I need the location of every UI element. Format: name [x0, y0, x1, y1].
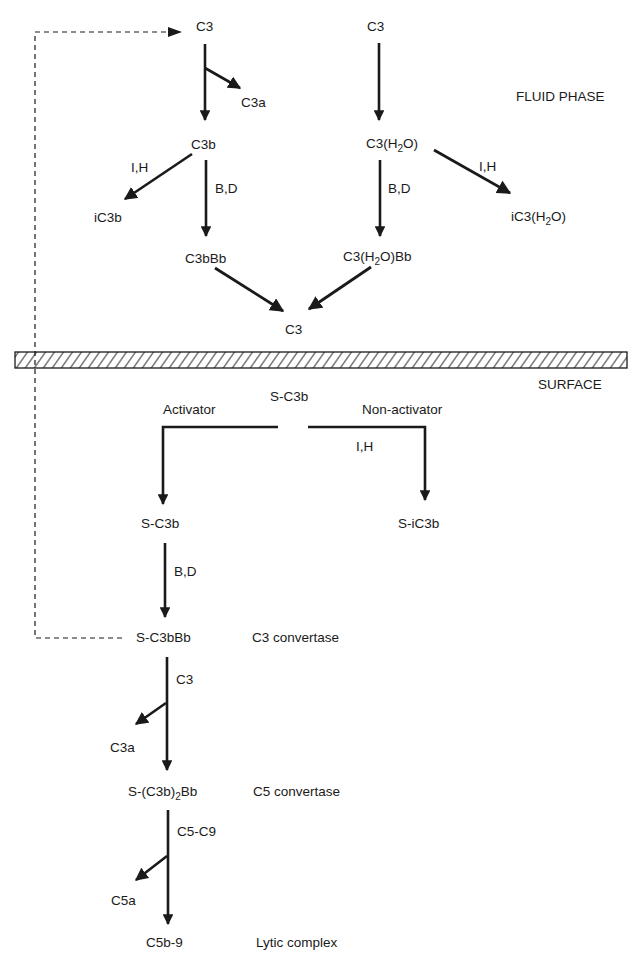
- edge-label-c5-c9-input: C5-C9: [177, 825, 216, 839]
- node-s-c3b2bb: S-(C3b)2Bb: [128, 785, 197, 799]
- node-c3b: C3b: [191, 138, 216, 152]
- arrow-surface-nonactivator-branch: [308, 427, 425, 500]
- arrow-to-c5a: [136, 856, 167, 880]
- arrow-to-c3a-bottom: [136, 703, 166, 724]
- node-s-c3bbb: S-C3bBb: [136, 631, 191, 645]
- node-c3bbb: C3bBb: [185, 252, 226, 266]
- edge-label-bd-left: B,D: [215, 182, 238, 196]
- node-c3a-top: C3a: [241, 96, 266, 110]
- edge-label-bd-surface: B,D: [174, 565, 197, 579]
- surface-membrane-bar: [15, 352, 627, 368]
- node-c5a: C5a: [111, 894, 136, 908]
- node-c3-merge: C3: [285, 323, 302, 337]
- node-c3-left-top: C3: [196, 20, 213, 34]
- edge-label-non-activator: Non-activator: [362, 403, 442, 417]
- node-c3a-bottom: C3a: [110, 741, 135, 755]
- edge-label-c3-input: C3: [176, 673, 193, 687]
- node-c3h2obb: C3(H2O)Bb: [343, 250, 412, 264]
- amplification-loop-dashed-arrow: [35, 27, 182, 638]
- arrow-c3bbb-to-c3: [215, 268, 283, 311]
- node-c3h2o: C3(H2O): [366, 137, 418, 151]
- annotation-c3-convertase: C3 convertase: [252, 631, 339, 645]
- arrow-c3h2o-to-ic3h2o: [434, 150, 510, 193]
- node-ic3h2o: iC3(H2O): [511, 210, 566, 224]
- edge-label-ih-right: I,H: [479, 160, 496, 174]
- arrow-surface-activator-branch: [163, 427, 278, 504]
- region-label-surface: SURFACE: [538, 378, 602, 392]
- pathway-diagram: [0, 0, 641, 959]
- edge-label-bd-right: B,D: [388, 182, 411, 196]
- region-label-fluid-phase: FLUID PHASE: [516, 90, 605, 104]
- node-c3-right-top: C3: [367, 20, 384, 34]
- edge-label-ih-left: I,H: [131, 161, 148, 175]
- arrow-c3-to-c3a-top: [205, 68, 240, 88]
- node-s-c3b-top: S-C3b: [270, 390, 308, 404]
- arrow-c3h2obb-to-c3: [309, 267, 371, 309]
- edge-label-ih-surface: I,H: [356, 440, 373, 454]
- annotation-lytic-complex: Lytic complex: [256, 936, 337, 950]
- node-s-c3b: S-C3b: [141, 517, 179, 531]
- node-c5b9: C5b-9: [146, 936, 183, 950]
- annotation-c5-convertase: C5 convertase: [253, 785, 340, 799]
- node-s-ic3b: S-iC3b: [398, 517, 439, 531]
- edge-label-activator: Activator: [163, 403, 216, 417]
- node-ic3b: iC3b: [94, 211, 122, 225]
